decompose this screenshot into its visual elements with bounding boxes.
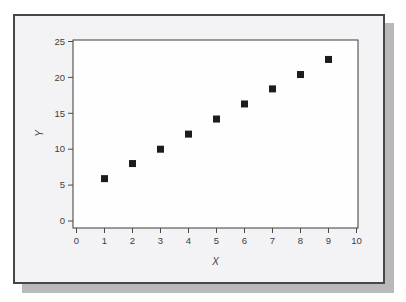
y-tick-label: 25 [54,36,65,47]
data-point-marker [185,131,192,138]
x-tick-label: 10 [351,235,362,246]
data-point-marker [269,85,276,92]
x-tick-label: 7 [270,235,275,246]
data-point-marker [213,116,220,123]
x-tick-label: 0 [74,235,79,246]
data-point-marker [241,100,248,107]
y-tick-label: 5 [60,179,65,190]
y-tick-label: 15 [54,108,65,119]
data-point-marker [325,56,332,63]
x-tick-label: 4 [186,235,191,246]
plot-frame [73,40,358,228]
x-axis-title: X [73,256,358,267]
page-root: 0510152025012345678910 X Y [0,0,406,302]
x-tick-label: 1 [102,235,107,246]
x-tick-label: 5 [214,235,219,246]
y-axis-title: Y [34,119,45,149]
x-tick-label: 8 [298,235,303,246]
data-point-marker [297,71,304,78]
y-tick-label: 20 [54,72,65,83]
y-tick-label: 10 [54,143,65,154]
y-tick-label: 0 [60,215,65,226]
data-point-marker [157,146,164,153]
data-point-marker [101,175,108,182]
x-tick-label: 3 [158,235,163,246]
x-tick-label: 6 [242,235,247,246]
x-tick-label: 2 [130,235,135,246]
x-tick-label: 9 [326,235,331,246]
data-point-marker [129,160,136,167]
